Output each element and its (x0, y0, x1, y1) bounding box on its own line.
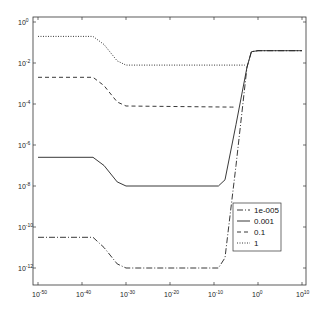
series-line-3 (38, 36, 245, 65)
y-tick-label: 10-2 (18, 58, 30, 67)
x-tick-label: 10-50 (32, 289, 47, 298)
legend-label: 1 (254, 239, 259, 248)
legend-label: 1e-005 (254, 206, 279, 215)
y-tick-label: 10-12 (18, 263, 33, 272)
series-line-1 (38, 51, 302, 186)
x-tick-label: 10-40 (76, 289, 91, 298)
x-tick-label: 100 (252, 289, 263, 298)
x-tick-label: 1010 (296, 289, 310, 298)
legend-label: 0.1 (254, 228, 266, 237)
legend-label: 0.001 (254, 217, 275, 226)
y-tick-label: 10-8 (18, 181, 30, 190)
x-tick-label: 10-30 (120, 289, 135, 298)
chart: 10-5010-4010-3010-2010-101001010 10010-2… (0, 0, 324, 314)
y-tick-label: 10-4 (18, 99, 30, 108)
y-tick-label: 100 (18, 17, 29, 26)
series-line-2 (38, 77, 236, 107)
y-tick-label: 10-6 (18, 140, 30, 149)
legend: 1e-0050.0010.11 (233, 203, 281, 251)
y-tick-label: 10-10 (18, 222, 33, 231)
x-tick-label: 10-20 (164, 289, 179, 298)
x-tick-label: 10-10 (208, 289, 223, 298)
